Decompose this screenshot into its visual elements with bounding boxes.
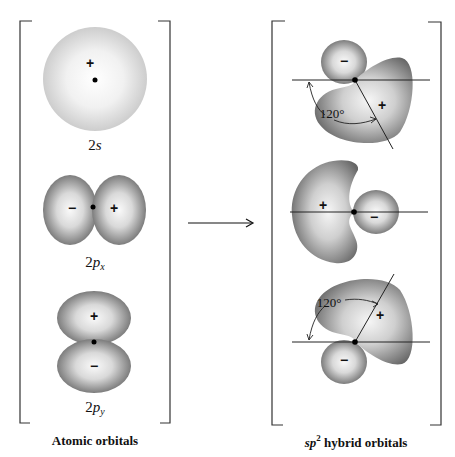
sign-plus: + <box>86 55 94 71</box>
hybrid-orbital-middle: + − <box>290 160 428 263</box>
label-2px: 2px <box>85 254 105 272</box>
nucleus-dot <box>351 209 357 215</box>
sign-plus: + <box>90 308 98 324</box>
nucleus-dot <box>92 340 97 345</box>
sign-minus: − <box>68 200 76 216</box>
sign-plus: + <box>378 97 386 113</box>
hybrid-orbital-bottom: − + 120° <box>292 274 430 384</box>
nucleus-dot <box>352 77 358 83</box>
label-2s: 2s <box>88 137 102 153</box>
orbital-2py: + − 2py <box>57 291 131 417</box>
caption-sp2-hybrid-orbitals: sp2 hybrid orbitals <box>304 433 408 450</box>
sign-minus: − <box>370 209 378 225</box>
sign-minus: − <box>340 53 348 69</box>
orbital-2s: + 2s <box>43 27 147 153</box>
label-2py: 2py <box>85 399 105 417</box>
nucleus-dot <box>93 78 98 83</box>
nucleus-dot <box>91 205 96 210</box>
angle-label: 120° <box>320 106 345 121</box>
angle-label: 120° <box>317 295 342 310</box>
hybrid-orbital-top: − + 120° <box>292 40 430 149</box>
sign-plus: + <box>376 307 384 323</box>
sign-plus: + <box>110 200 118 216</box>
caption-atomic-orbitals: Atomic orbitals <box>52 433 138 448</box>
nucleus-dot <box>352 339 358 345</box>
right-arrow-icon <box>188 219 253 227</box>
sign-plus: + <box>319 197 327 213</box>
sign-minus: − <box>340 352 348 368</box>
orbital-2px: − + 2px <box>43 175 146 272</box>
sign-minus: − <box>90 358 98 374</box>
orbital-diagram: + 2s − + 2px + − 2py Atomic orbitals <box>0 0 455 457</box>
